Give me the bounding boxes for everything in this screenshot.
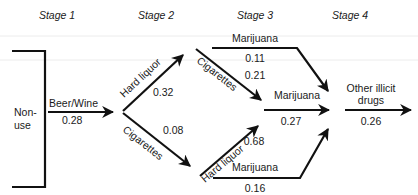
cigarettes-stage2-value: 0.08 xyxy=(163,124,184,136)
marijuana-top-value: 0.11 xyxy=(245,52,265,64)
beer-wine-value: 0.28 xyxy=(62,114,83,126)
other-illicit-label-line1: Other illicit xyxy=(346,82,395,94)
marijuana-top-label: Marijuana xyxy=(232,32,278,44)
beer-wine-label: Beer/Wine xyxy=(49,97,98,109)
marijuana-bottom-value: 0.16 xyxy=(245,182,266,194)
hard-liquor-stage2-value: 0.32 xyxy=(153,86,174,98)
hard-liquor-stage3-value: 0.68 xyxy=(244,135,265,147)
drug-use-stage-diagram: Stage 1 Stage 2 Stage 3 Stage 4 Non- use… xyxy=(0,0,418,195)
marijuana-bottom-label: Marijuana xyxy=(232,161,278,173)
stage-4-label: Stage 4 xyxy=(332,9,368,21)
other-illicit-value: 0.26 xyxy=(361,115,382,127)
stage-2-label: Stage 2 xyxy=(138,9,174,21)
marijuana-middle-label: Marijuana xyxy=(274,89,320,101)
marijuana-middle-value: 0.27 xyxy=(281,115,302,127)
stage-1-label: Stage 1 xyxy=(39,9,75,21)
non-use-label-line2: use xyxy=(14,119,31,131)
cigarettes-stage3-value: 0.21 xyxy=(245,69,266,81)
stage-3-label: Stage 3 xyxy=(237,9,273,21)
other-illicit-label-line2: drugs xyxy=(358,94,384,106)
non-use-label-line1: Non- xyxy=(14,106,37,118)
